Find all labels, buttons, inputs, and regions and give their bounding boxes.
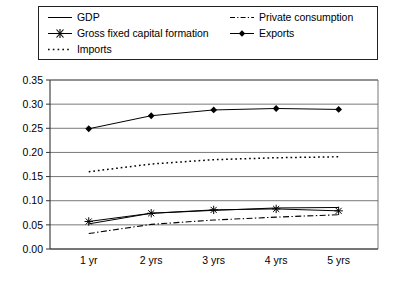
y-tick-label: 0.15 <box>23 170 44 182</box>
data-point-marker <box>148 112 155 119</box>
chart-plot-area: 0.000.050.100.150.200.250.300.35 1 yr2 y… <box>0 0 393 281</box>
series-imports <box>89 157 339 172</box>
data-point-marker <box>334 207 342 215</box>
chart-y-tick-labels: 0.000.050.100.150.200.250.300.35 <box>23 74 50 255</box>
chart-x-tick-labels: 1 yr2 yrs3 yrs4 yrs5 yrs <box>80 254 350 266</box>
chart-figure: GDP Gross fixed capital formation <box>0 0 393 281</box>
x-tick-label: 3 yrs <box>202 254 225 266</box>
chart-svg: 0.000.050.100.150.200.250.300.35 1 yr2 y… <box>0 0 393 281</box>
y-tick-label: 0.05 <box>23 219 44 231</box>
data-point-marker <box>85 125 92 132</box>
y-tick-label: 0.30 <box>23 98 44 110</box>
y-tick-label: 0.25 <box>23 122 44 134</box>
data-point-marker <box>272 205 280 213</box>
x-tick-label: 4 yrs <box>265 254 288 266</box>
chart-gridlines <box>50 80 378 249</box>
data-point-marker <box>335 106 342 113</box>
x-tick-label: 2 yrs <box>140 254 163 266</box>
y-tick-label: 0.10 <box>23 194 44 206</box>
data-point-marker <box>147 209 155 217</box>
y-tick-label: 0.20 <box>23 146 44 158</box>
y-tick-label: 0.35 <box>23 74 44 86</box>
series-line <box>89 157 339 172</box>
data-point-marker <box>273 105 280 112</box>
data-point-marker <box>85 217 93 225</box>
data-point-marker <box>209 206 217 214</box>
data-point-marker <box>210 107 217 114</box>
chart-frame <box>50 80 378 249</box>
x-tick-label: 1 yr <box>80 254 98 266</box>
chart-series-layer <box>85 105 343 233</box>
x-tick-label: 5 yrs <box>327 254 350 266</box>
y-tick-label: 0.00 <box>23 243 44 255</box>
